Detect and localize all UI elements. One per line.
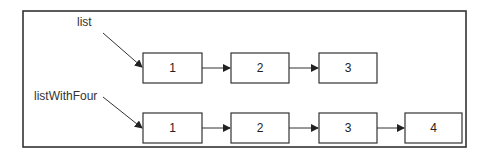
list-row-list-with-four: listWithFour 1 2 3 4: [34, 89, 462, 143]
node-value: 1: [169, 121, 176, 135]
list-node: 3: [319, 53, 377, 83]
list-label: list: [77, 15, 92, 29]
node-value: 2: [257, 61, 264, 75]
list-node: 4: [405, 113, 462, 143]
list-node: 3: [319, 113, 377, 143]
list-row-list: list 1 2 3: [77, 15, 377, 83]
node-value: 1: [169, 61, 176, 75]
pointer-arrow: [103, 33, 142, 67]
list-node: 2: [231, 113, 289, 143]
node-value: 3: [345, 61, 352, 75]
list-node: 1: [143, 113, 202, 143]
pointer-arrow: [103, 97, 142, 128]
node-value: 3: [345, 121, 352, 135]
linked-list-diagram: list 1 2 3 listWithFour 1 2: [0, 0, 486, 154]
list-node: 2: [231, 53, 289, 83]
list-node: 1: [143, 53, 202, 83]
node-value: 4: [430, 121, 437, 135]
node-value: 2: [257, 121, 264, 135]
list-with-four-label: listWithFour: [34, 89, 97, 103]
